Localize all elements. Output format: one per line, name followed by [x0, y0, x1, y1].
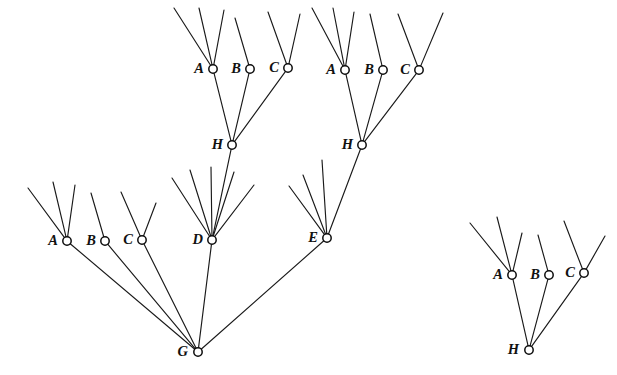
node-circle[interactable]: [228, 141, 236, 149]
branch-ray: [370, 14, 382, 66]
diagram-node[interactable]: H: [507, 341, 533, 357]
node-circle[interactable]: [379, 66, 387, 74]
node-label: A: [325, 61, 336, 77]
diagram-node[interactable]: C: [123, 231, 146, 247]
node-circle[interactable]: [358, 141, 366, 149]
diagram-node[interactable]: E: [307, 229, 331, 245]
node-circle[interactable]: [341, 66, 349, 74]
branch-ray: [586, 236, 605, 269]
branch-ray: [421, 13, 443, 66]
diagram-edge: [70, 244, 195, 350]
branch-ray: [121, 192, 140, 236]
branch-ray: [564, 221, 582, 269]
node-circle[interactable]: [545, 271, 553, 279]
diagram-node[interactable]: C: [565, 264, 588, 280]
node-circle[interactable]: [246, 65, 254, 73]
diagram-node[interactable]: H: [211, 136, 236, 152]
node-circle[interactable]: [415, 66, 423, 74]
node-label: A: [193, 60, 204, 76]
node-circle[interactable]: [194, 348, 202, 356]
diagram-node[interactable]: H: [341, 136, 366, 152]
diagram-edge: [234, 71, 285, 141]
node-circle[interactable]: [208, 236, 216, 244]
node-label: H: [341, 136, 354, 152]
diagram-edge: [328, 149, 360, 234]
diagram-node[interactable]: C: [269, 59, 292, 75]
branch-ray: [470, 223, 509, 272]
diagram-canvas: ABCHABCHABCDEGABCH: [0, 0, 617, 375]
node-circle[interactable]: [525, 346, 533, 354]
node-label: D: [192, 231, 204, 247]
branch-ray: [214, 10, 224, 65]
node-circle[interactable]: [63, 237, 71, 245]
node-label: A: [492, 266, 503, 282]
branch-ray: [28, 188, 65, 238]
branch-ray: [346, 12, 354, 66]
branch-ray: [213, 172, 234, 236]
branch-ray: [143, 203, 156, 236]
node-label: A: [47, 232, 58, 248]
diagram-node[interactable]: C: [400, 61, 423, 77]
branch-ray: [289, 14, 300, 64]
node-circle[interactable]: [284, 64, 292, 72]
node-circle[interactable]: [323, 234, 331, 242]
branching-diagram: ABCHABCHABCDEGABCH: [0, 0, 617, 375]
node-circle[interactable]: [101, 237, 109, 245]
branch-ray: [513, 233, 522, 271]
node-label: B: [230, 60, 241, 76]
branch-ray: [190, 170, 211, 236]
branch-ray: [53, 182, 66, 237]
node-label: C: [400, 61, 410, 77]
branch-ray: [235, 18, 249, 65]
node-circle[interactable]: [209, 65, 217, 73]
node-circle[interactable]: [580, 269, 588, 277]
edges-layer: [70, 71, 581, 349]
node-label: C: [123, 231, 133, 247]
diagram-node[interactable]: B: [363, 61, 387, 77]
node-label: C: [565, 264, 575, 280]
diagram-node[interactable]: D: [192, 231, 217, 247]
diagram-node[interactable]: B: [230, 60, 254, 76]
diagram-edge: [213, 149, 231, 236]
branch-ray: [91, 193, 104, 237]
node-label: C: [269, 59, 279, 75]
diagram-edge: [199, 244, 212, 348]
node-label: E: [307, 229, 318, 245]
branch-ray: [497, 217, 511, 271]
node-label: H: [211, 136, 224, 152]
diagram-edge: [346, 74, 361, 141]
node-circle[interactable]: [138, 236, 146, 244]
branch-ray: [211, 167, 212, 236]
branch-ray: [398, 14, 418, 66]
branch-ray: [268, 12, 287, 64]
node-label: B: [529, 266, 540, 282]
diagram-edge: [201, 241, 324, 349]
diagram-node[interactable]: B: [529, 266, 553, 282]
branch-ray: [322, 160, 327, 234]
diagram-edge: [214, 73, 231, 141]
node-circle[interactable]: [508, 271, 516, 279]
node-label: B: [363, 61, 374, 77]
branch-ray: [289, 186, 325, 235]
node-label: B: [85, 232, 96, 248]
diagram-node[interactable]: B: [85, 232, 109, 248]
node-label: H: [507, 341, 520, 357]
branch-ray: [172, 178, 210, 236]
diagram-edge: [513, 279, 528, 346]
branch-ray: [68, 185, 75, 237]
node-label: G: [178, 343, 189, 359]
diagram-edge: [233, 73, 249, 141]
branch-ray: [303, 175, 326, 234]
branch-ray: [215, 185, 254, 237]
